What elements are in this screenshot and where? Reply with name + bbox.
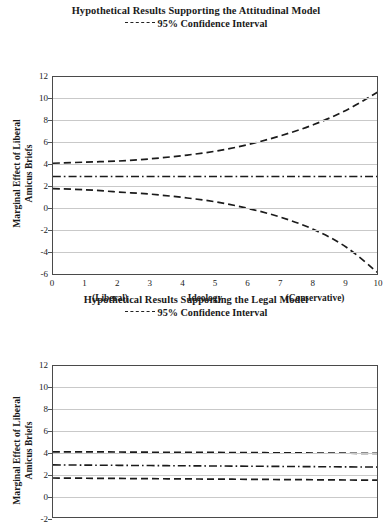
y-tick-label: 8: [22, 405, 48, 414]
lower-ci-line: [53, 478, 378, 480]
gridline: [53, 230, 377, 231]
y-tick-label: -6: [22, 270, 48, 279]
chart-title: Hypothetical Results Supporting the Lega…: [0, 293, 392, 306]
gridline: [53, 120, 377, 121]
gridline: [53, 497, 377, 498]
y-tick-label: 0: [22, 204, 48, 213]
y-tick-label: 10: [22, 383, 48, 392]
legend-dashed-line-icon: [125, 311, 155, 312]
gridline: [53, 142, 377, 143]
figure-2-title-block: Hypothetical Results Supporting the Lega…: [0, 280, 392, 319]
gridline: [53, 453, 377, 454]
lower-ci-line: [53, 189, 378, 274]
plot-frame: [52, 76, 378, 275]
legend-label: 95% Confidence Interval: [158, 306, 268, 319]
y-tick-label: 8: [22, 116, 48, 125]
point-estimate-line: [53, 465, 378, 467]
y-axis-label-line-1: Marginal Effect of Liberal: [11, 385, 23, 517]
legend: 95% Confidence Interval: [0, 306, 392, 319]
gridline: [53, 164, 377, 165]
y-tick-label: 4: [22, 449, 48, 458]
figure-attitudinal-model: Hypothetical Results Supporting the Atti…: [0, 0, 392, 280]
plot-frame: [52, 365, 378, 518]
y-axis-label-line-2: Amicus Briefs: [22, 108, 34, 240]
y-axis-label-line-1: Marginal Effect of Liberal: [11, 108, 23, 240]
y-tick-label: 2: [22, 471, 48, 480]
gridline: [53, 208, 377, 209]
confidence-interval-curves: [53, 366, 378, 518]
y-tick-label: 12: [22, 72, 48, 81]
y-tick-label: -2: [22, 226, 48, 235]
upper-ci-line: [53, 91, 378, 163]
figure-legal-model: Hypothetical Results Supporting the Lega…: [0, 280, 392, 475]
legend: 95% Confidence Interval: [0, 17, 392, 30]
y-tick-label: 2: [22, 182, 48, 191]
y-tick-mark: [48, 519, 52, 520]
legend-dashed-line-icon: [125, 22, 155, 23]
y-tick-label: 12: [22, 361, 48, 370]
y-tick-label: -2: [22, 515, 48, 524]
gridline: [53, 409, 377, 410]
gridline: [53, 252, 377, 253]
y-tick-label: 0: [22, 493, 48, 502]
gridline: [53, 98, 377, 99]
gridline: [53, 387, 377, 388]
gridline: [53, 431, 377, 432]
gridline: [53, 475, 377, 476]
y-tick-label: 6: [22, 427, 48, 436]
y-tick-label: 10: [22, 94, 48, 103]
y-axis-label: Marginal Effect of Liberal Amicus Briefs: [11, 108, 34, 240]
legend-label: 95% Confidence Interval: [158, 17, 268, 30]
y-tick-label: -4: [22, 248, 48, 257]
y-tick-label: 4: [22, 160, 48, 169]
gridline: [53, 186, 377, 187]
chart-title: Hypothetical Results Supporting the Atti…: [0, 4, 392, 17]
y-tick-label: 6: [22, 138, 48, 147]
confidence-interval-curves: [53, 77, 378, 275]
figure-1-title-block: Hypothetical Results Supporting the Atti…: [0, 0, 392, 30]
